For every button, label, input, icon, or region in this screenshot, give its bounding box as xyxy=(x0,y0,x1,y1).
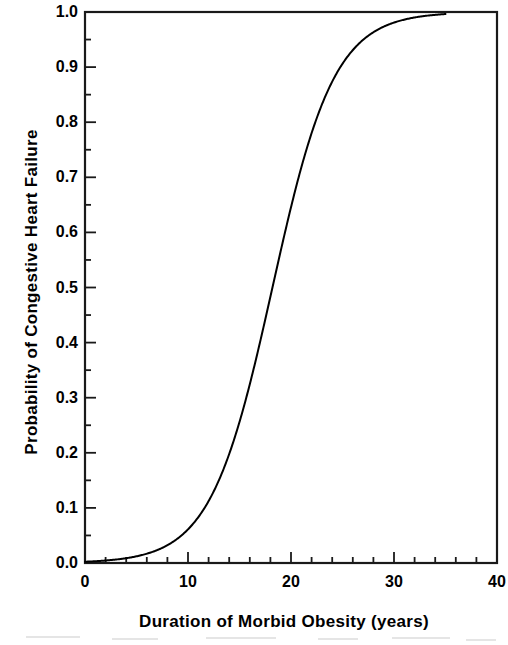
scan-artifact xyxy=(26,636,80,638)
plot-frame xyxy=(85,12,497,563)
scan-artifact xyxy=(112,638,158,640)
scan-artifact xyxy=(206,637,276,639)
x-tick-label: 30 xyxy=(374,574,414,590)
x-tick-label: 20 xyxy=(271,574,311,590)
plot-area xyxy=(0,0,508,645)
x-axis-label: Duration of Morbid Obesity (years) xyxy=(60,612,508,632)
scan-artifact xyxy=(318,638,358,640)
x-tick-label: 0 xyxy=(65,574,105,590)
x-tick-label: 40 xyxy=(477,574,508,590)
data-curve xyxy=(85,14,446,562)
scan-artifact xyxy=(466,639,496,641)
chart-figure: Probability of Congestive Heart Failure … xyxy=(0,0,508,645)
scan-artifact xyxy=(392,637,450,639)
x-tick-label: 10 xyxy=(168,574,208,590)
